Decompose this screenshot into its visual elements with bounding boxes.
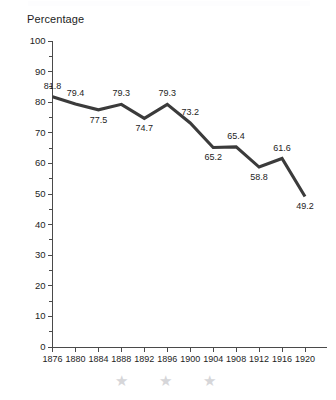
y-axis-tick-100: 100 bbox=[20, 35, 46, 46]
data-label-1904: 65.2 bbox=[198, 152, 228, 162]
star-decoration-1: ★ bbox=[115, 373, 128, 388]
y-axis-tick-50: 50 bbox=[20, 188, 46, 199]
y-axis-tick-30: 30 bbox=[20, 249, 46, 260]
y-axis-tick-20: 20 bbox=[20, 280, 46, 291]
data-label-1888: 79.3 bbox=[106, 88, 136, 98]
star-decoration-2: ★ bbox=[159, 373, 172, 388]
data-label-1880: 79.4 bbox=[60, 88, 90, 98]
y-axis-tick-10: 10 bbox=[20, 310, 46, 321]
y-axis-tick-60: 60 bbox=[20, 157, 46, 168]
data-label-1892: 74.7 bbox=[129, 123, 159, 133]
star-decoration-3: ★ bbox=[203, 373, 216, 388]
data-label-1896: 79.3 bbox=[152, 88, 182, 98]
y-axis-tick-90: 90 bbox=[20, 66, 46, 77]
y-axis-tick-70: 70 bbox=[20, 127, 46, 138]
x-axis-tick-1920: 1920 bbox=[288, 354, 322, 364]
line-chart-plot bbox=[0, 0, 336, 400]
data-label-1908: 65.4 bbox=[221, 131, 251, 141]
y-axis-tick-80: 80 bbox=[20, 96, 46, 107]
data-label-1920: 49.2 bbox=[290, 201, 320, 211]
data-label-1900: 73.2 bbox=[175, 107, 205, 117]
data-label-1916: 61.6 bbox=[267, 143, 297, 153]
chart-figure: Percentage 1009080706050403020100 187618… bbox=[0, 0, 336, 400]
y-axis-tick-0: 0 bbox=[20, 341, 46, 352]
data-label-1912: 58.8 bbox=[244, 172, 274, 182]
data-label-1884: 77.5 bbox=[83, 115, 113, 125]
y-axis-tick-40: 40 bbox=[20, 219, 46, 230]
